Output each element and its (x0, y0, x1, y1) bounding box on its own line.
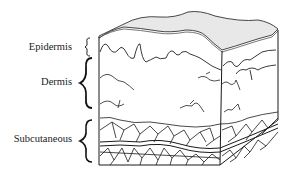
epidermis-boundary (100, 44, 276, 80)
brace-epidermis (85, 38, 90, 56)
surface-top (99, 12, 278, 51)
subcutaneous-cells (100, 112, 278, 165)
skin-block-illustration (0, 0, 294, 177)
brace-subcutaneous (80, 120, 92, 162)
brace-dermis (80, 58, 92, 108)
skin-diagram: Epidermis Dermis Subcutaneous (0, 0, 294, 177)
dermis-fibers (100, 72, 240, 112)
